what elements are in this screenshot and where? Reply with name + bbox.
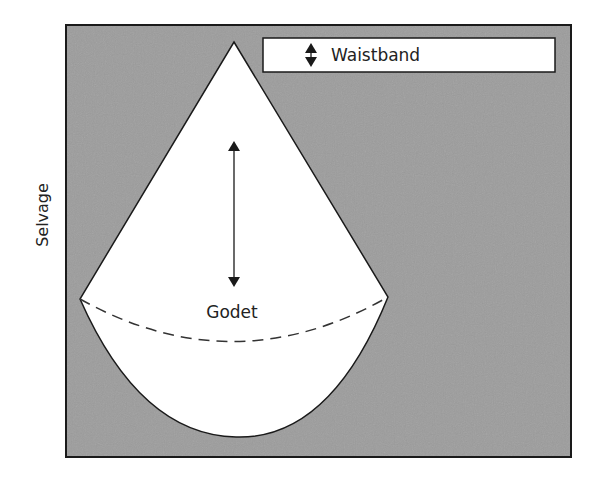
waistband-piece: Waistband (263, 38, 555, 72)
layout-diagram: Waistband Godet Selvage (0, 0, 592, 485)
godet-label: Godet (206, 302, 258, 322)
selvage-label: Selvage (33, 183, 52, 247)
waistband-label: Waistband (331, 45, 420, 65)
